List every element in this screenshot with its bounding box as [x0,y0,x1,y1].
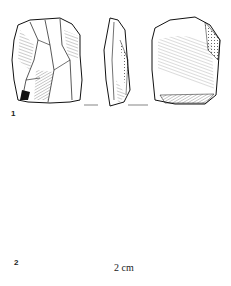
artifact-1-lateral-view [104,18,130,106]
artifact-1-dorsal-view [12,18,82,103]
lithic-illustration [0,0,231,286]
artifact-number-2: 2 [14,258,18,267]
artifact-1-ventral-view [152,17,220,104]
scale-bar-label: 2 cm [114,262,134,273]
artifact-number-1: 1 [11,109,15,118]
artifact-1 [12,17,220,106]
